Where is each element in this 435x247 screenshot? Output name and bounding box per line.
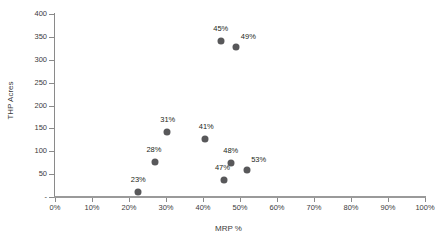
data-point[interactable] — [221, 176, 228, 183]
x-tick-label: 80% — [343, 203, 358, 212]
y-tick — [49, 14, 54, 15]
y-tick-label: 400 — [0, 10, 47, 18]
data-point[interactable] — [151, 159, 158, 166]
data-point-label: 53% — [251, 154, 266, 163]
x-tick-label: 40% — [195, 203, 210, 212]
x-tick — [277, 198, 278, 202]
data-point[interactable] — [227, 160, 234, 167]
y-tick-label-text: 100 — [3, 147, 47, 155]
x-tick — [55, 198, 56, 202]
y-tick — [49, 151, 54, 152]
data-point-label: 31% — [160, 114, 175, 123]
x-tick-label: 0% — [50, 203, 61, 212]
y-tick-label: - — [0, 193, 47, 201]
y-tick-label: 350 — [0, 33, 47, 41]
data-point-label: 23% — [131, 175, 146, 184]
y-tick-label: 50 — [0, 170, 47, 178]
y-tick — [49, 37, 54, 38]
x-tick-label: 10% — [84, 203, 99, 212]
data-point[interactable] — [233, 44, 240, 51]
y-tick-label-text: 350 — [3, 33, 47, 41]
x-axis-title-text: MRP % — [215, 224, 242, 233]
x-tick — [203, 198, 204, 202]
data-point[interactable] — [243, 166, 250, 173]
x-tick — [240, 198, 241, 202]
data-point-label: 45% — [213, 23, 228, 32]
x-tick — [425, 198, 426, 202]
data-point-label: 41% — [199, 121, 214, 130]
x-tick-label: 100% — [415, 203, 434, 212]
data-point[interactable] — [135, 189, 142, 196]
data-point[interactable] — [163, 128, 170, 135]
data-point-label: 48% — [223, 146, 238, 155]
y-tick — [49, 128, 54, 129]
x-tick — [92, 198, 93, 202]
x-tick-label: 30% — [158, 203, 173, 212]
y-tick-label-text: 50 — [3, 170, 47, 178]
y-tick-label-text: 400 — [3, 10, 47, 18]
x-tick-label: 20% — [121, 203, 136, 212]
y-tick-label-text: - — [3, 193, 47, 201]
y-tick-label: 100 — [0, 147, 47, 155]
x-tick — [166, 198, 167, 202]
x-axis-title: MRP % — [0, 224, 429, 233]
data-point-label: 28% — [146, 145, 161, 154]
y-tick — [49, 83, 54, 84]
x-tick-label: 50% — [232, 203, 247, 212]
data-point[interactable] — [202, 135, 209, 142]
data-point-label: 49% — [241, 32, 256, 41]
x-tick — [129, 198, 130, 202]
y-axis-title: THP Acres — [6, 61, 15, 141]
y-tick — [49, 197, 54, 198]
x-tick — [388, 198, 389, 202]
y-tick — [49, 174, 54, 175]
x-tick-label: 90% — [380, 203, 395, 212]
x-tick — [314, 198, 315, 202]
y-tick — [49, 106, 54, 107]
plot-area: 23%28%31%41%45%47%48%49%53% — [55, 14, 425, 197]
x-tick — [351, 198, 352, 202]
y-tick — [49, 60, 54, 61]
x-tick-label: 60% — [269, 203, 284, 212]
data-point[interactable] — [217, 37, 224, 44]
x-tick-label: 70% — [306, 203, 321, 212]
